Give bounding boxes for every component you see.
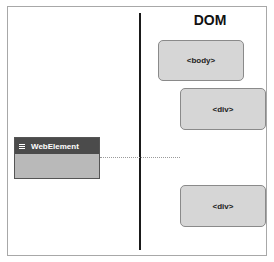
vertical-divider <box>139 13 141 250</box>
dom-node-div-1: <div> <box>180 88 266 130</box>
dom-node-body: <body> <box>158 40 244 81</box>
dom-node-label: <div> <box>213 202 234 211</box>
dom-node-label: <div> <box>213 105 234 114</box>
dom-node-div-2: <div> <box>180 185 266 227</box>
minus-box-icon <box>19 144 25 149</box>
dotted-connector <box>100 157 180 158</box>
web-element-title: WebElement <box>31 142 79 151</box>
web-element-box: WebElement <box>14 137 100 179</box>
dom-title: DOM <box>180 12 240 28</box>
dom-node-label: <body> <box>187 56 215 65</box>
web-element-header: WebElement <box>15 138 99 154</box>
